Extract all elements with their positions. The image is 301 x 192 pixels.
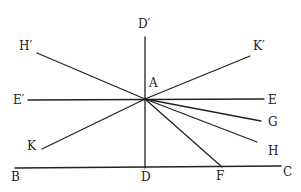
label-H: H	[268, 144, 278, 158]
line-AG	[145, 99, 261, 121]
label-A: A	[148, 76, 158, 90]
label-F: F	[216, 169, 224, 183]
label-C: C	[283, 165, 292, 179]
label-D: D	[141, 170, 151, 184]
label-G: G	[268, 115, 278, 129]
label-E-prime: E′	[13, 93, 25, 107]
label-H-prime: H′	[19, 39, 32, 53]
line-AH	[145, 99, 257, 142]
line-AKprime	[145, 56, 250, 99]
label-E: E	[268, 93, 277, 107]
label-K-prime: K′	[253, 39, 265, 53]
line-HprimeA	[37, 53, 145, 99]
line-BC	[15, 166, 281, 168]
label-D-prime: D′	[138, 17, 151, 31]
line-KA	[42, 99, 145, 149]
label-K: K	[27, 139, 37, 153]
point-A	[143, 97, 146, 100]
line-AF	[145, 99, 222, 167]
label-B: B	[11, 170, 20, 184]
geometry-diagram: D′ H′ K′ E′ A E G H K B D F C	[0, 0, 301, 192]
